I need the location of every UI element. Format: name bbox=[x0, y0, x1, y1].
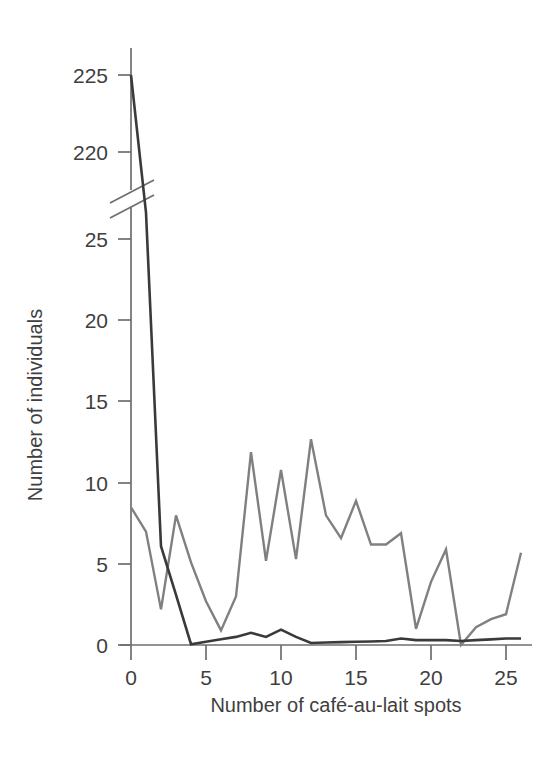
data-series-group bbox=[131, 75, 521, 645]
y-tick-label-20: 20 bbox=[85, 309, 108, 332]
x-tick-label-10: 10 bbox=[269, 666, 292, 689]
gray-series-line bbox=[131, 439, 521, 645]
y-tick-label-220: 220 bbox=[73, 141, 108, 164]
x-tick-labels: 0 5 10 15 20 25 bbox=[125, 666, 518, 689]
x-tick-marks bbox=[131, 645, 506, 660]
y-tick-label-5: 5 bbox=[96, 553, 108, 576]
x-axis-title: Number of café-au-lait spots bbox=[210, 694, 461, 716]
y-tick-label-25: 25 bbox=[85, 228, 108, 251]
y-tick-marks-lower bbox=[118, 239, 131, 645]
y-tick-label-0: 0 bbox=[96, 634, 108, 657]
x-tick-label-20: 20 bbox=[419, 666, 442, 689]
y-axis-title: Number of individuals bbox=[24, 309, 46, 501]
x-tick-label-5: 5 bbox=[200, 666, 212, 689]
x-tick-label-0: 0 bbox=[125, 666, 137, 689]
y-tick-label-225: 225 bbox=[73, 64, 108, 87]
y-tick-marks-upper bbox=[118, 75, 131, 152]
x-tick-label-25: 25 bbox=[494, 666, 517, 689]
y-tick-label-10: 10 bbox=[85, 472, 108, 495]
chart-figure: 225 220 25 20 15 10 5 0 0 5 10 15 20 25 bbox=[0, 0, 552, 760]
y-axis bbox=[108, 48, 156, 645]
y-tick-labels: 225 220 25 20 15 10 5 0 bbox=[73, 64, 108, 657]
y-tick-label-15: 15 bbox=[85, 390, 108, 413]
line-chart-svg: 225 220 25 20 15 10 5 0 0 5 10 15 20 25 bbox=[0, 0, 552, 760]
axis-break-mask bbox=[108, 178, 156, 220]
x-tick-label-15: 15 bbox=[344, 666, 367, 689]
